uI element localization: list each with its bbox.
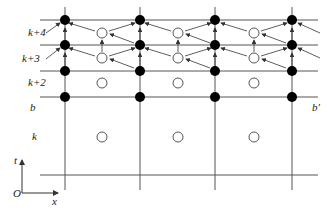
origin-label: O (13, 187, 21, 199)
diagonal-arrow (69, 23, 95, 31)
filled-node (60, 92, 70, 102)
filled-node (210, 15, 220, 25)
diagonal-arrow (185, 23, 211, 31)
label-k: k (32, 130, 38, 142)
open-node (249, 78, 259, 88)
filled-node (60, 40, 70, 50)
filled-node (287, 66, 297, 76)
filled-node (210, 92, 220, 102)
open-node (249, 53, 259, 63)
label-b-prime: b′ (312, 101, 321, 113)
t-axis-label: t (14, 154, 18, 166)
diagonal-arrow (262, 34, 286, 43)
filled-node (210, 66, 220, 76)
label-pointer-arrow (46, 23, 60, 33)
diagonal-arrow (262, 59, 286, 68)
x-axis-label: x (51, 195, 57, 207)
diagonal-arrow (261, 48, 287, 56)
open-node (249, 132, 259, 142)
open-node (173, 132, 183, 142)
diagonal-arrow (298, 48, 320, 58)
open-node (173, 78, 183, 88)
open-node (249, 28, 259, 38)
grid-nodes (60, 15, 297, 142)
diagonal-arrow (221, 23, 247, 31)
filled-node (287, 15, 297, 25)
diagonal-arrow (69, 48, 95, 56)
diagonal-arrow (109, 48, 135, 56)
filled-node (135, 66, 145, 76)
label-pointer-arrow (46, 48, 60, 59)
label-k-plus-3: k+3 (22, 52, 40, 64)
filled-node (287, 40, 297, 50)
label-k-plus-4: k+4 (28, 26, 46, 38)
diagonal-arrow (110, 59, 134, 68)
open-node (173, 28, 183, 38)
open-node (97, 78, 107, 88)
grid-lines (40, 12, 318, 190)
diagonal-arrow (110, 34, 134, 43)
diagonal-arrow (145, 23, 171, 31)
label-k-plus-2: k+2 (28, 76, 46, 88)
diagonal-arrow (298, 23, 320, 33)
diagonal-arrow (186, 59, 210, 68)
label-b: b (30, 101, 36, 113)
filled-node (60, 66, 70, 76)
filled-node (287, 92, 297, 102)
filled-node (60, 15, 70, 25)
diagonal-arrow (109, 23, 135, 31)
diagonal-arrow (186, 34, 210, 43)
grid-diagram: k+4 k+3 k+2 b k b′ O x t (0, 0, 330, 210)
filled-node (135, 40, 145, 50)
filled-node (135, 92, 145, 102)
open-node (97, 53, 107, 63)
diagonal-arrow (145, 48, 171, 56)
filled-node (135, 15, 145, 25)
diagonal-arrow (221, 48, 247, 56)
diagonal-arrow (185, 48, 211, 56)
filled-node (210, 40, 220, 50)
open-node (173, 53, 183, 63)
open-node (97, 28, 107, 38)
open-node (97, 132, 107, 142)
diagonal-arrow (261, 23, 287, 31)
